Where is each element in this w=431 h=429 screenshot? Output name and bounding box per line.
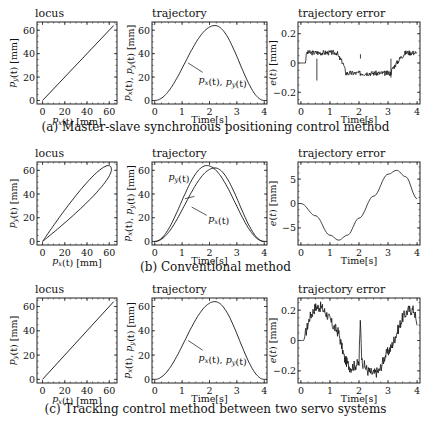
panel-a-locus: locus02040600204060py(t) [mm]px(t) [mm]: [6, 7, 117, 127]
error-curve: [301, 50, 417, 75]
y-tick-label: 0: [29, 236, 35, 247]
x-tick-label: 0: [40, 385, 46, 396]
y-tick-label: 0: [29, 95, 35, 106]
plot-frame: [298, 298, 420, 383]
y-tick-label: 20: [138, 212, 150, 223]
annotation-pxpy: px(t), py(t): [199, 74, 247, 89]
y-tick-label: 20: [23, 212, 35, 223]
x-tick-label: 4: [414, 247, 420, 258]
y-tick-label: 0: [29, 374, 35, 385]
x-tick-label: 60: [103, 106, 115, 117]
annotation-py: py(t): [168, 171, 189, 184]
y-tick-label: 40: [138, 325, 150, 336]
x-tick-label: 4: [414, 385, 420, 396]
trajectory-curve: [155, 302, 265, 380]
panel-c-locus: locus02040600204060py(t) [mm]px(t) [mm]: [6, 283, 117, 406]
y-axis-label: py(t) [mm]: [6, 179, 19, 229]
y-tick-label: 60: [23, 25, 35, 36]
y-axis-label: py(t) [mm]: [6, 316, 19, 366]
y-tick-label: 0.2: [281, 28, 296, 39]
panel-title: trajectory error: [298, 147, 386, 160]
panel-title: trajectory: [152, 147, 208, 160]
x-tick-label: 3: [234, 106, 240, 117]
x-tick-label: 1: [327, 247, 333, 258]
x-tick-label: 4: [414, 106, 420, 117]
x-tick-label: 1: [179, 247, 185, 258]
y-tick-label: −0.2: [273, 87, 296, 98]
locus-curve: [43, 302, 114, 380]
y-tick-label: 60: [138, 301, 150, 312]
y-tick-label: 0: [290, 335, 296, 346]
caption-b: (b) Conventional method: [0, 260, 431, 274]
y-axis-label: e(t) [mm]: [267, 318, 278, 363]
y-tick-label: 20: [138, 72, 150, 83]
y-axis-label: e(t) [mm]: [267, 181, 278, 226]
locus-curve: [43, 166, 112, 242]
caption-a: (a) Master-slave synchronous positioning…: [0, 120, 431, 134]
panel-c-error: trajectory error01234−0.200.2e(t) [mm]Ti…: [267, 283, 420, 404]
y-tick-label: −0.2: [273, 365, 296, 376]
panel-title: trajectory: [152, 7, 208, 20]
y-axis-label: px(t), py(t) [mm]: [121, 165, 136, 242]
y-tick-label: 0: [290, 198, 296, 209]
x-tick-label: 3: [234, 385, 240, 396]
x-tick-label: 60: [103, 385, 115, 396]
x-tick-label: 1: [179, 385, 185, 396]
y-tick-label: 20: [138, 350, 150, 361]
x-tick-label: 4: [261, 385, 267, 396]
y-tick-label: 5: [290, 174, 296, 185]
x-tick-label: 60: [103, 247, 115, 258]
x-tick-label: 0: [40, 247, 46, 258]
x-tick-label: 3: [385, 106, 391, 117]
x-tick-label: 1: [179, 106, 185, 117]
y-axis-label: px(t), py(t) [mm]: [121, 302, 136, 379]
panel-title: trajectory error: [298, 283, 386, 296]
plot-frame: [298, 22, 420, 104]
y-axis-label: e(t) [mm]: [267, 40, 278, 85]
y-tick-label: 40: [23, 189, 35, 200]
x-tick-label: 4: [261, 247, 267, 258]
x-tick-label: 3: [234, 247, 240, 258]
x-tick-label: 0: [298, 385, 304, 396]
y-tick-label: −5: [282, 222, 296, 233]
x-tick-label: 0: [152, 385, 158, 396]
y-axis-label: px(t), py(t) [mm]: [121, 25, 136, 102]
locus-curve: [43, 26, 114, 101]
x-tick-label: 1: [327, 385, 333, 396]
y-tick-label: 20: [23, 350, 35, 361]
y-tick-label: 40: [23, 325, 35, 336]
caption-c: (c) Tracking control method between two …: [0, 402, 431, 416]
plot-frame: [152, 298, 267, 383]
y-tick-label: 0: [144, 95, 150, 106]
panel-title: trajectory: [152, 283, 208, 296]
y-tick-label: 0: [144, 374, 150, 385]
y-tick-label: 40: [138, 48, 150, 59]
y-tick-label: 40: [138, 189, 150, 200]
panel-a-error: trajectory error01234−0.200.2e(t) [mm]Ti…: [267, 7, 420, 125]
x-tick-label: 4: [261, 106, 267, 117]
annotation-pxpy: px(t), py(t): [199, 352, 247, 367]
panel-b-locus: locus02040600204060py(t) [mm]px(t) [mm]: [6, 147, 117, 268]
y-tick-label: 60: [138, 25, 150, 36]
panel-title: locus: [35, 283, 64, 296]
y-tick-label: 60: [23, 165, 35, 176]
y-tick-label: 20: [23, 72, 35, 83]
panel-title: locus: [35, 147, 64, 160]
panel-title: trajectory error: [298, 7, 386, 20]
x-tick-label: 0: [152, 106, 158, 117]
error-curve: [301, 302, 417, 378]
trajectory-curve: [155, 26, 265, 101]
y-tick-label: 0: [290, 58, 296, 69]
figure-canvas: locus02040600204060py(t) [mm]px(t) [mm]t…: [0, 0, 431, 429]
error-curve: [301, 170, 417, 240]
x-tick-label: 1: [327, 106, 333, 117]
x-tick-label: 0: [298, 106, 304, 117]
panel-b-error: trajectory error01234−505e(t) [mm]Time[s…: [267, 147, 420, 266]
x-tick-label: 0: [152, 247, 158, 258]
x-tick-label: 0: [40, 106, 46, 117]
x-tick-label: 3: [385, 385, 391, 396]
y-tick-label: 60: [138, 165, 150, 176]
y-axis-label: py(t) [mm]: [6, 38, 19, 88]
panel-a-trajectory: trajectory012340204060px(t), py(t) [mm]T…: [121, 7, 267, 125]
panel-c-trajectory: trajectory012340204060px(t), py(t) [mm]T…: [121, 283, 267, 404]
